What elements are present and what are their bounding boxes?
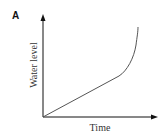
water-level-line [43,27,138,117]
x-axis-arrow-icon [151,115,158,120]
x-axis-label: Time [90,122,111,133]
y-axis-label: Water level [28,42,39,88]
chart: Time Water level [0,0,164,139]
y-axis-arrow-icon [41,14,46,21]
